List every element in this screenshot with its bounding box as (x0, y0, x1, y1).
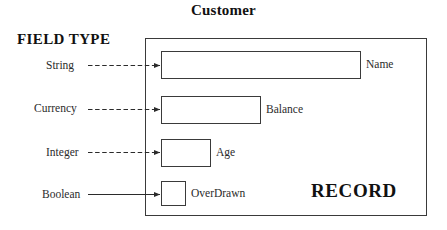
diagram-canvas: Customer FIELD TYPE String Currency Inte… (0, 0, 447, 230)
field-name-label-balance: Balance (266, 103, 303, 115)
field-type-label-boolean: Boolean (42, 188, 80, 200)
record-type-label: RECORD (311, 180, 397, 202)
field-type-label-integer: Integer (46, 146, 79, 158)
field-box-overdrawn (161, 181, 186, 206)
field-type-heading: FIELD TYPE (17, 31, 110, 48)
field-name-label-age: Age (216, 146, 235, 158)
field-box-age (161, 139, 211, 167)
field-name-label-overdrawn: OverDrawn (191, 187, 245, 199)
diagram-title: Customer (0, 2, 447, 19)
field-box-balance (161, 96, 261, 124)
field-type-label-string: String (46, 59, 74, 71)
field-type-label-currency: Currency (34, 102, 77, 114)
field-name-label-name: Name (366, 58, 393, 70)
field-box-name (161, 51, 361, 79)
